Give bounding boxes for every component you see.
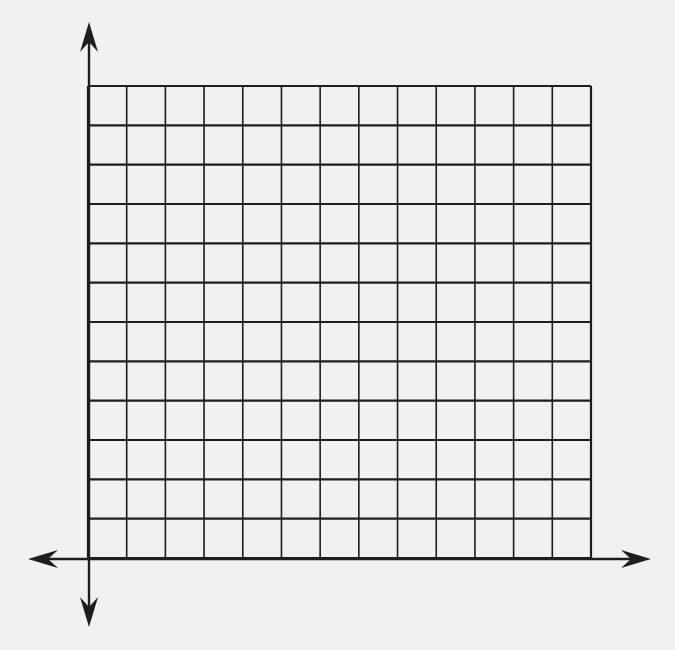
- axes: [28, 22, 651, 627]
- coordinate-grid-diagram: [0, 0, 675, 650]
- grid-lines: [88, 86, 591, 558]
- grid-canvas: [0, 0, 675, 650]
